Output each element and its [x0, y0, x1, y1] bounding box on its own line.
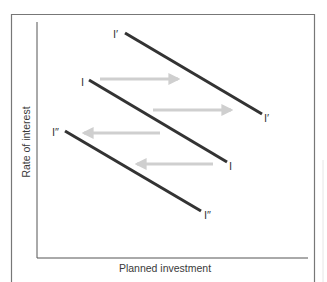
curve-i-double-prime [65, 131, 201, 211]
label-i-end: I [229, 160, 232, 172]
label-i-start: I [81, 76, 84, 88]
label-i-prime-start: I′ [113, 28, 118, 40]
curve-i-prime [125, 33, 262, 114]
y-axis-label: Rate of interest [20, 106, 32, 177]
label-i-prime-end: I′ [264, 112, 269, 124]
label-i-double-prime-end: I″ [204, 209, 211, 221]
x-axis-label: Planned investment [119, 262, 211, 274]
diagram-canvas: I′ I′ I I I″ I″ Planned investment Rate … [0, 0, 327, 282]
curve-i [89, 80, 227, 162]
label-i-double-prime-start: I″ [52, 126, 59, 138]
